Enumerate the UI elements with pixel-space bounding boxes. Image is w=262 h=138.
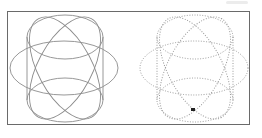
tilted-ellipse-a-dotted (145, 6, 245, 130)
middle-ellipse-dotted (140, 41, 248, 95)
tilted-ellipse-a (15, 6, 115, 130)
middle-ellipse (10, 41, 118, 95)
top-ellipse (27, 15, 103, 59)
figures-svg (0, 0, 262, 138)
marker-dot (191, 108, 195, 111)
tilted-ellipse-b-dotted (145, 6, 245, 130)
diagram-canvas (0, 0, 262, 138)
top-ellipse-dotted (157, 15, 233, 59)
bottom-ellipse-dotted (157, 78, 233, 122)
solid-wireframe-figure (10, 6, 118, 130)
tilted-ellipse-b (15, 6, 115, 130)
dotted-wireframe-figure (140, 6, 248, 130)
bottom-ellipse (27, 78, 103, 122)
